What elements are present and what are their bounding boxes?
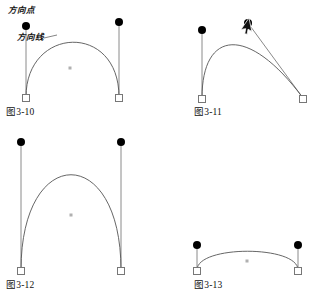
bezier-curve xyxy=(21,175,121,270)
annotation-leader-line xyxy=(44,35,57,38)
bezier-curve xyxy=(26,42,119,97)
mouse-pointer-cursor[interactable] xyxy=(240,18,257,36)
midpoint-marker xyxy=(246,260,249,263)
anchor-point-left[interactable] xyxy=(194,268,201,275)
caption-fig-3-10: 图3-10 xyxy=(6,108,34,118)
caption-fig-3-12: 图3-12 xyxy=(6,281,34,291)
direction-point-left[interactable] xyxy=(193,241,201,249)
direction-point-left[interactable] xyxy=(198,26,206,34)
direction-point-right[interactable] xyxy=(294,241,302,249)
cursor-arrow-icon xyxy=(240,18,257,36)
figure-fig-3-10 xyxy=(22,18,123,102)
anchor-point-right[interactable] xyxy=(300,96,307,103)
figure-fig-3-11 xyxy=(198,18,307,103)
caption-fig-3-11: 图3-11 xyxy=(194,108,222,118)
bezier-curve xyxy=(202,45,303,98)
figure-fig-3-13 xyxy=(193,241,302,275)
direction-point-right[interactable] xyxy=(115,18,123,26)
anchor-point-right[interactable] xyxy=(118,268,125,275)
anchor-point-right[interactable] xyxy=(116,95,123,102)
direction-point-right[interactable] xyxy=(117,138,125,146)
anchor-point-left[interactable] xyxy=(23,95,30,102)
direction-point-left[interactable] xyxy=(17,138,25,146)
bezier-figures-canvas xyxy=(0,0,315,303)
anchor-point-left[interactable] xyxy=(199,96,206,103)
anchor-point-right[interactable] xyxy=(295,268,302,275)
midpoint-marker xyxy=(70,214,73,217)
annotation-direction-line: 方向线 xyxy=(17,33,44,42)
figure-board xyxy=(0,0,315,303)
caption-fig-3-13: 图3-13 xyxy=(194,281,222,291)
figures-layer xyxy=(17,18,307,275)
midpoint-marker xyxy=(69,67,72,70)
annotation-direction-point: 方向点 xyxy=(8,6,35,15)
figure-fig-3-12 xyxy=(17,138,125,275)
direction-point-left[interactable] xyxy=(22,22,30,30)
anchor-point-left[interactable] xyxy=(18,268,25,275)
